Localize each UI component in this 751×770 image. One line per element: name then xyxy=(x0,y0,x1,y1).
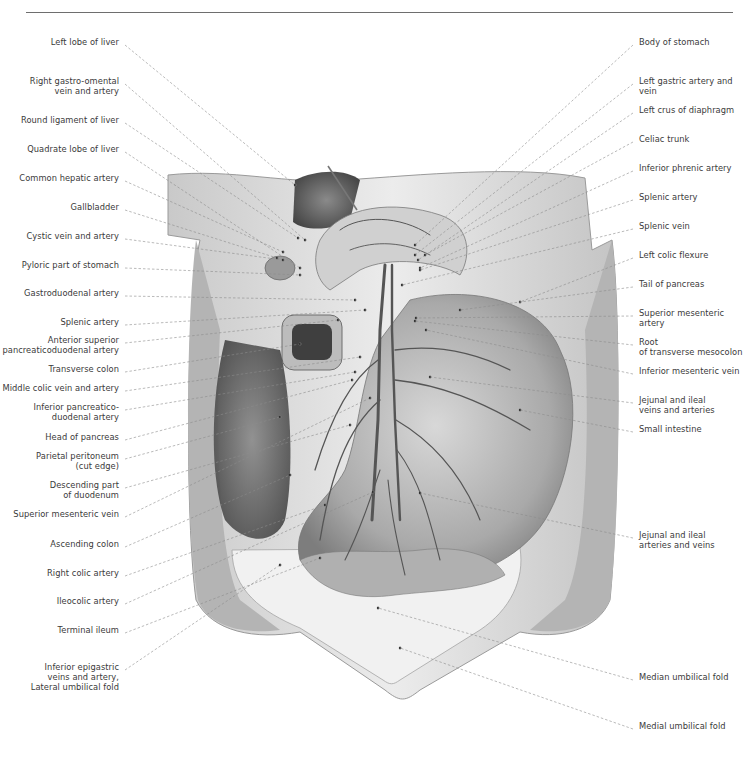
leader-endpoint-dot xyxy=(282,251,284,253)
label-left-7: Pyloric part of stomach xyxy=(22,260,119,270)
label-left-22: Inferior epigastric veins and artery, La… xyxy=(31,662,119,692)
label-left-8: Gastroduodenal artery xyxy=(24,288,119,298)
leader-endpoint-dot xyxy=(354,299,356,301)
label-right-14: Jejunal and ileal arteries and veins xyxy=(639,530,715,550)
label-left-3: Quadrate lobe of liver xyxy=(27,144,119,154)
leader-endpoint-dot xyxy=(364,309,366,311)
leader-endpoint-dot xyxy=(304,239,306,241)
label-left-12: Middle colic vein and artery xyxy=(2,383,119,393)
label-left-9: Splenic artery xyxy=(60,317,119,327)
leader-endpoint-dot xyxy=(324,504,326,506)
label-left-16: Descending part of duodenum xyxy=(50,480,119,500)
leader-endpoint-dot xyxy=(419,492,421,494)
leader-endpoint-dot xyxy=(372,491,374,493)
leader-endpoint-dot xyxy=(319,557,321,559)
label-left-15: Parietal peritoneum (cut edge) xyxy=(36,451,119,471)
label-right-2: Left crus of diaphragm xyxy=(639,105,734,115)
label-left-17: Superior mesenteric vein xyxy=(13,509,119,519)
leader-endpoint-dot xyxy=(289,474,291,476)
label-right-10: Root of transverse mesocolon xyxy=(639,337,742,357)
leader-endpoint-dot xyxy=(354,371,356,373)
leader-endpoint-dot xyxy=(299,274,301,276)
label-left-18: Ascending colon xyxy=(50,539,119,549)
label-left-10: Anterior superior pancreaticoduodenal ar… xyxy=(2,335,119,355)
label-left-20: Ileocolic artery xyxy=(57,596,119,606)
label-right-3: Celiac trunk xyxy=(639,134,689,144)
label-left-11: Transverse colon xyxy=(49,364,120,374)
label-right-13: Small intestine xyxy=(639,424,702,434)
ascending-colon xyxy=(214,340,291,539)
leader-endpoint-dot xyxy=(425,329,427,331)
leader-endpoint-dot xyxy=(279,564,281,566)
leader-endpoint-dot xyxy=(279,416,281,418)
leader-endpoint-dot xyxy=(519,409,521,411)
leader-endpoint-dot xyxy=(359,356,361,358)
label-right-11: Inferior mesenteric vein xyxy=(639,366,740,376)
leader-endpoint-dot xyxy=(401,284,403,286)
leader-endpoint-dot xyxy=(276,257,278,259)
leader-endpoint-dot xyxy=(415,317,417,319)
label-left-21: Terminal ileum xyxy=(58,625,119,635)
leader-endpoint-dot xyxy=(459,309,461,311)
label-right-8: Tail of pancreas xyxy=(639,279,704,289)
leader-endpoint-dot xyxy=(297,237,299,239)
leader-endpoint-dot xyxy=(399,647,401,649)
leader-endpoint-dot xyxy=(351,379,353,381)
leader-endpoint-dot xyxy=(337,319,339,321)
label-left-5: Gallbladder xyxy=(71,202,119,212)
leader-endpoint-dot xyxy=(414,254,416,256)
label-right-6: Splenic vein xyxy=(639,221,690,231)
gallbladder xyxy=(265,256,295,280)
label-right-9: Superior mesenteric artery xyxy=(639,308,751,328)
label-left-6: Cystic vein and artery xyxy=(26,231,119,241)
label-right-12: Jejunal and ileal veins and arteries xyxy=(639,395,715,415)
label-left-1: Right gastro-omental vein and artery xyxy=(30,76,119,96)
label-right-1: Left gastric artery and vein xyxy=(639,76,751,96)
leader-line xyxy=(125,45,295,185)
label-left-0: Left lobe of liver xyxy=(51,37,119,47)
transverse-colon-cut xyxy=(282,315,342,370)
leader-endpoint-dot xyxy=(377,607,379,609)
leader-endpoint-dot xyxy=(419,269,421,271)
label-left-19: Right colic artery xyxy=(47,568,119,578)
leader-endpoint-dot xyxy=(424,254,426,256)
label-right-0: Body of stomach xyxy=(639,37,710,47)
label-left-2: Round ligament of liver xyxy=(21,115,119,125)
label-right-5: Splenic artery xyxy=(639,192,698,202)
leader-endpoint-dot xyxy=(369,397,371,399)
label-left-14: Head of pancreas xyxy=(45,432,119,442)
leader-endpoint-dot xyxy=(414,244,416,246)
leader-endpoint-dot xyxy=(282,259,284,261)
label-right-4: Inferior phrenic artery xyxy=(639,163,732,173)
leader-endpoint-dot xyxy=(417,259,419,261)
leader-endpoint-dot xyxy=(294,184,296,186)
label-right-7: Left colic flexure xyxy=(639,250,708,260)
leader-endpoint-dot xyxy=(299,343,301,345)
leader-endpoint-dot xyxy=(414,320,416,322)
leader-endpoint-dot xyxy=(429,376,431,378)
leader-endpoint-dot xyxy=(349,424,351,426)
label-right-15: Median umbilical fold xyxy=(639,672,729,682)
label-right-16: Medial umbilical fold xyxy=(639,721,726,731)
label-left-13: Inferior pancreatico- duodenal artery xyxy=(33,402,119,422)
label-left-4: Common hepatic artery xyxy=(19,173,119,183)
leader-endpoint-dot xyxy=(299,267,301,269)
